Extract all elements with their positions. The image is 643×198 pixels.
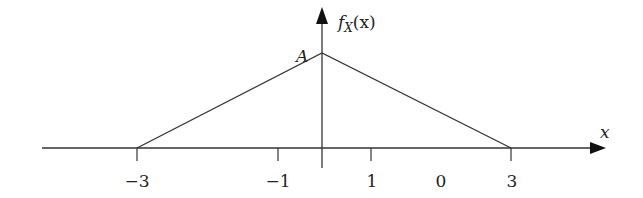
pdf-line bbox=[137, 53, 511, 148]
tick-label-m3: −3 bbox=[124, 171, 149, 191]
y-axis-arrow-icon bbox=[316, 7, 328, 24]
tick-label-0: 0 bbox=[436, 171, 447, 191]
tick-label-1: 1 bbox=[367, 171, 378, 191]
triangular-pdf-chart: A fX(x) x −3 −1 1 0 3 bbox=[0, 0, 643, 198]
y-axis-label: fX(x) bbox=[336, 12, 376, 35]
tick-label-m1: −1 bbox=[265, 171, 290, 191]
x-axis-label: x bbox=[600, 122, 610, 142]
tick-label-3: 3 bbox=[507, 171, 518, 191]
peak-label: A bbox=[294, 46, 308, 66]
x-axis-arrow-icon bbox=[590, 142, 606, 154]
